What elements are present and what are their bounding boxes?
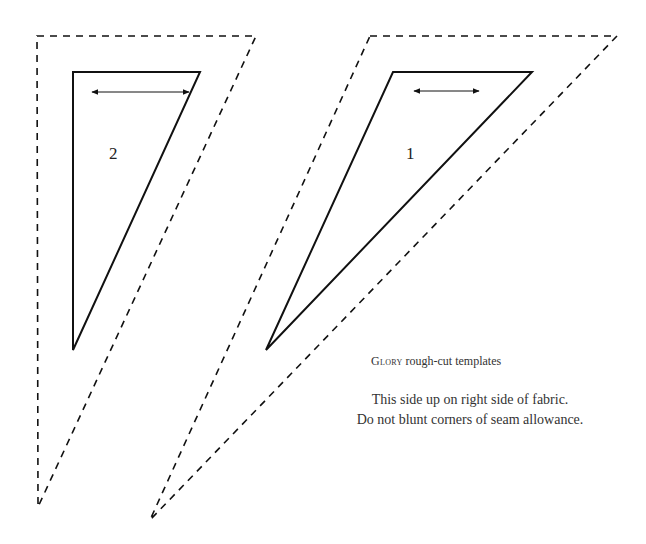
- templates-caption: Glory rough-cut templates: [371, 354, 501, 369]
- template-2-seam-allowance: [37, 36, 256, 507]
- template-2-cut-line: [73, 72, 200, 350]
- template-2-number: 2: [109, 144, 118, 164]
- instruction-line-2: Do not blunt corners of seam allowance.: [300, 410, 640, 430]
- instruction-line-1: This side up on right side of fabric.: [300, 390, 640, 410]
- caption-rest: rough-cut templates: [403, 354, 502, 368]
- template-1-seam-allowance: [150, 36, 617, 520]
- template-1-cut-line: [266, 72, 532, 350]
- caption-smallcaps-word: Glory: [371, 354, 403, 368]
- templates-drawing: [0, 0, 646, 544]
- template-1-number: 1: [406, 144, 415, 164]
